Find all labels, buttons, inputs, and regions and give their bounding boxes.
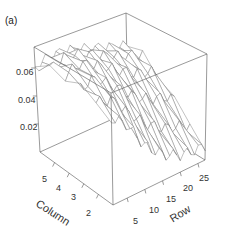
row-tick-label-25: 25	[199, 174, 209, 183]
column-tick-label-4: 4	[56, 184, 61, 193]
column-tick-label-3: 3	[71, 193, 76, 202]
column-tick-label-2: 2	[86, 209, 91, 218]
z-tick-label-0.06: 0.06	[16, 68, 34, 77]
z-tick-label-0.02: 0.02	[20, 123, 38, 132]
row-tick-label-20: 20	[183, 184, 193, 193]
row-tick-label-15: 15	[166, 195, 176, 204]
z-tick-label-0.04: 0.04	[18, 96, 36, 105]
column-tick-label-5: 5	[42, 175, 47, 184]
row-tick-label-5: 5	[133, 217, 138, 226]
row-tick-label-10: 10	[149, 206, 159, 215]
panel-label: (a)	[5, 15, 17, 26]
